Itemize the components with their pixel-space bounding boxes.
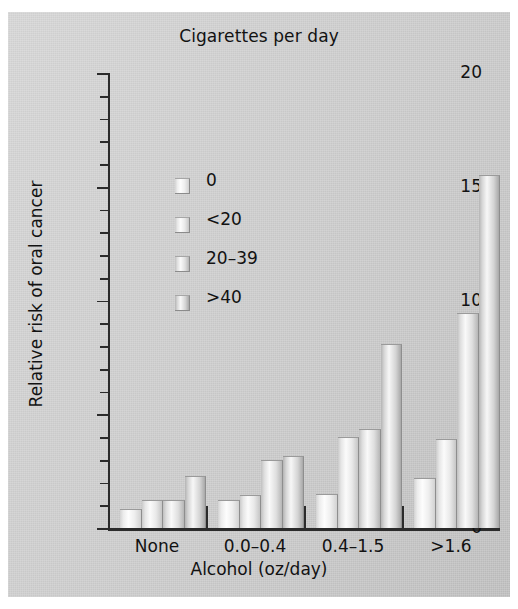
- bar-0.0–0.4->40: [283, 456, 305, 528]
- legend-swatch-icon: [175, 217, 190, 233]
- y-tick-major: [97, 73, 108, 75]
- bar-None-<20: [142, 500, 164, 528]
- y-tick-minor: [100, 392, 108, 394]
- bar-None-0: [120, 509, 142, 528]
- y-tick-minor: [100, 96, 108, 98]
- legend-label: 20–39: [206, 248, 258, 268]
- legend-label: 0: [206, 170, 217, 190]
- bar->1.6-<20: [436, 439, 458, 528]
- bar-0.4–1.5-<20: [338, 437, 360, 528]
- y-tick-major: [97, 187, 108, 189]
- legend-swatch-icon: [175, 178, 190, 194]
- y-axis-line: [108, 73, 110, 530]
- x-axis-title: Alcohol (oz/day): [8, 559, 510, 579]
- y-tick-major: [97, 414, 108, 416]
- y-tick-major: [97, 301, 108, 303]
- figure-bar-chart: Cigarettes per day Relative risk of oral…: [8, 12, 510, 597]
- legend-label: >40: [206, 287, 242, 307]
- x-tick-label: 0.4–1.5: [304, 536, 402, 556]
- legend-label: <20: [206, 209, 242, 229]
- y-tick-minor: [100, 164, 108, 166]
- y-tick-minor: [100, 437, 108, 439]
- y-tick-label: 10: [436, 290, 482, 310]
- bar-0.0–0.4-20–39: [261, 460, 283, 528]
- group-separator: [206, 506, 208, 528]
- y-tick-minor: [100, 141, 108, 143]
- y-axis-title: Relative risk of oral cancer: [26, 114, 46, 474]
- bar-0.0–0.4-<20: [240, 495, 262, 528]
- bar-0.4–1.5-20–39: [359, 429, 381, 528]
- bar->1.6-20–39: [457, 313, 479, 528]
- bar->1.6->40: [479, 175, 501, 528]
- y-tick-minor: [100, 505, 108, 507]
- x-tick-label: None: [108, 536, 206, 556]
- legend-swatch-icon: [175, 256, 190, 272]
- bar-0.4–1.5->40: [381, 344, 403, 528]
- bar-None->40: [185, 476, 207, 528]
- group-separator: [402, 506, 404, 528]
- y-tick-minor: [100, 346, 108, 348]
- y-tick-minor: [100, 232, 108, 234]
- y-tick-minor: [100, 255, 108, 257]
- legend-swatch-icon: [175, 295, 190, 311]
- y-tick-minor: [100, 483, 108, 485]
- y-tick-minor: [100, 278, 108, 280]
- bar-None-20–39: [163, 500, 185, 528]
- group-separator: [304, 506, 306, 528]
- y-tick-label: 15: [436, 176, 482, 196]
- y-tick-minor: [100, 119, 108, 121]
- y-tick-label: 20: [436, 62, 482, 82]
- bar-0.4–1.5-0: [316, 494, 338, 528]
- bar->1.6-0: [414, 478, 436, 528]
- chart-title: Cigarettes per day: [8, 26, 510, 46]
- x-tick-label: 0.0–0.4: [206, 536, 304, 556]
- plot-area: 05101520 None0.0–0.40.4–1.5>1.6: [108, 73, 500, 530]
- x-tick-label: >1.6: [402, 536, 500, 556]
- y-tick-minor: [100, 210, 108, 212]
- y-tick-major: [97, 528, 108, 530]
- y-tick-minor: [100, 323, 108, 325]
- y-tick-minor: [100, 460, 108, 462]
- bar-0.0–0.4-0: [218, 500, 240, 528]
- y-tick-minor: [100, 369, 108, 371]
